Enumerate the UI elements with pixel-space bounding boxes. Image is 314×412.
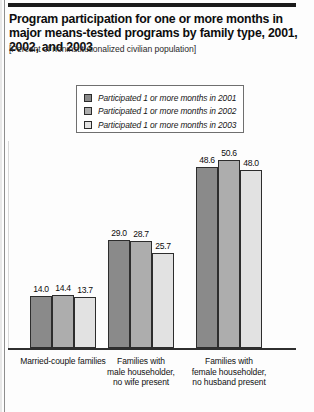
bar-value-label: 14.4 [55, 283, 71, 293]
bar [218, 160, 240, 348]
chart-legend: Participated 1 or more months in 2001 Pa… [76, 85, 244, 133]
bar [52, 295, 74, 348]
bar-group: 48.650.648.0 [196, 160, 262, 348]
legend-item-2002: Participated 1 or more months in 2002 [84, 105, 243, 119]
bar-value-label: 14.0 [33, 284, 49, 294]
bar-column: 14.4 [52, 295, 74, 348]
legend-swatch-icon-2002 [84, 107, 92, 115]
bar-column: 28.7 [130, 241, 152, 348]
bar [30, 296, 52, 348]
bar-column: 50.6 [218, 160, 240, 348]
x-axis-baseline [8, 348, 296, 350]
bar [108, 240, 130, 348]
page-subtitle: [Percent of noninstitutionalized civilia… [9, 44, 299, 55]
category-label-line: female householder, [169, 367, 289, 378]
bar [240, 170, 262, 348]
page-margin-shadow [0, 0, 2, 412]
page-border-line [4, 0, 5, 412]
legend-item-2001: Participated 1 or more months in 2001 [84, 91, 243, 105]
bar-column: 48.6 [196, 167, 218, 348]
y-axis-line [8, 141, 9, 350]
legend-label-2002: Participated 1 or more months in 2002 [98, 106, 236, 116]
bar-column: 29.0 [108, 240, 130, 348]
bar-group: 29.028.725.7 [108, 240, 174, 348]
bar-value-label: 28.7 [133, 229, 149, 239]
bar-column: 13.7 [74, 297, 96, 348]
bar-column: 25.7 [152, 253, 174, 348]
legend-label-2003: Participated 1 or more months in 2003 [98, 120, 236, 130]
category-label-line: no husband present [169, 377, 289, 388]
bar [196, 167, 218, 348]
chart-page: Program participation for one or more mo… [0, 0, 314, 412]
bar-value-label: 25.7 [155, 241, 171, 251]
legend-label-2001: Participated 1 or more months in 2001 [98, 93, 236, 103]
bar-column: 14.0 [30, 296, 52, 348]
plot-area: 14.014.413.729.028.725.748.650.648.0 [8, 140, 296, 350]
category-label: Families withfemale householder,no husba… [169, 356, 289, 388]
legend-swatch-icon-2001 [84, 94, 92, 102]
title-top-rule [8, 3, 296, 7]
bar [130, 241, 152, 348]
legend-swatch-icon-2003 [84, 121, 92, 129]
legend-item-2003: Participated 1 or more months in 2003 [84, 118, 243, 132]
bar-column: 48.0 [240, 170, 262, 348]
bar-value-label: 13.7 [77, 285, 93, 295]
bar-value-label: 48.6 [199, 155, 215, 165]
bar [152, 253, 174, 348]
page-footer-artifact [40, 403, 270, 411]
bar-value-label: 29.0 [111, 228, 127, 238]
category-label-line: Families with [169, 356, 289, 367]
bar-group: 14.014.413.7 [30, 295, 96, 348]
bar-value-label: 48.0 [243, 158, 259, 168]
bar [74, 297, 96, 348]
bar-value-label: 50.6 [221, 148, 237, 158]
